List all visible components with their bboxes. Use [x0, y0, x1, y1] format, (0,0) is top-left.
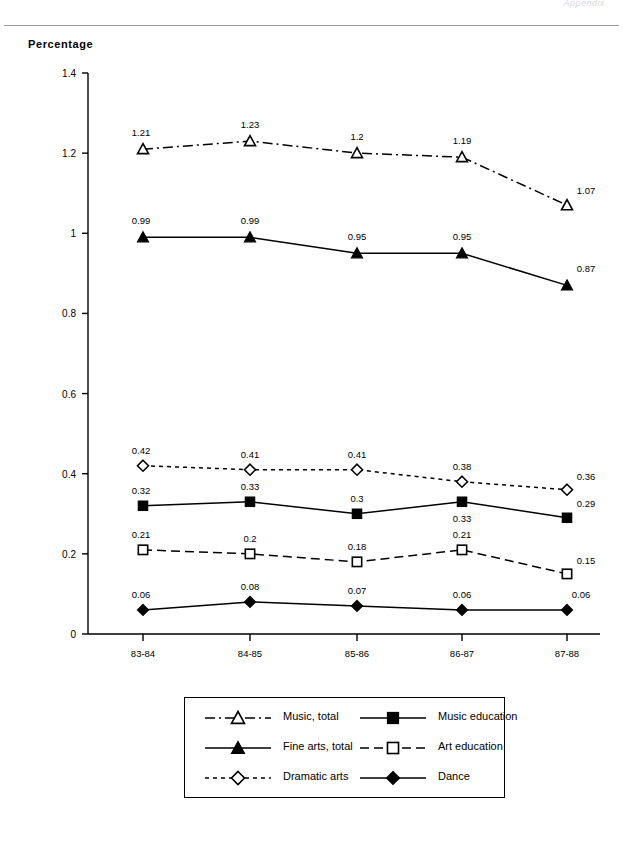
y-axis-tick-label: 1 [36, 228, 76, 239]
legend-entry-art-education: Art education [430, 740, 503, 752]
y-axis-tick-label: 0.8 [36, 308, 76, 319]
data-point-label: 0.21 [453, 528, 472, 539]
data-point-label: 0.3 [350, 492, 363, 503]
y-axis-tick-label: 1.4 [36, 68, 76, 79]
data-point-label: 0.87 [577, 263, 596, 274]
data-point-label: 0.2 [243, 532, 256, 543]
data-point-label: 1.2 [350, 131, 363, 142]
data-point-label: 0.06 [132, 588, 151, 599]
data-point-label: 0.99 [132, 215, 151, 226]
x-axis-tick-label: 83-84 [113, 648, 173, 659]
data-point-label: 0.41 [348, 448, 367, 459]
data-point-label: 0.08 [241, 580, 260, 591]
y-axis-tick-label: 0.6 [36, 388, 76, 399]
data-point-label: 1.19 [453, 135, 472, 146]
legend-entry-fine-arts-total: Fine arts, total [275, 740, 353, 752]
data-point-label: 0.07 [348, 584, 367, 595]
legend-entry-dramatic-arts: Dramatic arts [275, 770, 348, 782]
data-point-label: 0.15 [577, 554, 596, 565]
chart-axes [82, 73, 600, 641]
x-axis-tick-label: 84-85 [220, 648, 280, 659]
x-axis-tick-label: 86-87 [432, 648, 492, 659]
data-point-label: 0.33 [453, 512, 472, 523]
data-point-label: 1.07 [577, 185, 596, 196]
data-point-label: 1.21 [132, 127, 151, 138]
legend-entry-music-education: Music education [430, 710, 518, 722]
chart-legend: Music, totalMusic educationFine arts, to… [184, 697, 505, 798]
legend-entry-music-total: Music, total [275, 710, 339, 722]
data-point-label: 0.36 [577, 470, 596, 481]
y-axis-tick-label: 0 [36, 629, 76, 640]
data-point-label: 0.95 [348, 231, 367, 242]
data-point-label: 0.29 [577, 497, 596, 508]
y-axis-tick-label: 0.2 [36, 548, 76, 559]
data-point-label: 0.95 [453, 231, 472, 242]
data-point-label: 0.99 [241, 215, 260, 226]
data-point-label: 0.06 [572, 588, 591, 599]
x-axis-tick-label: 85-86 [327, 648, 387, 659]
data-point-label: 0.38 [453, 460, 472, 471]
chart-page: Appendix Percentage 00.20.40.60.811.21.4… [0, 0, 623, 843]
data-point-label: 1.23 [241, 119, 260, 130]
data-point-label: 0.41 [241, 448, 260, 459]
data-point-label: 0.21 [132, 528, 151, 539]
legend-entry-dance: Dance [430, 770, 470, 782]
data-point-label: 0.06 [453, 588, 472, 599]
data-point-label: 0.18 [348, 540, 367, 551]
y-axis-tick-label: 1.2 [36, 148, 76, 159]
data-point-label: 0.32 [132, 484, 151, 495]
y-axis-tick-label: 0.4 [36, 468, 76, 479]
data-point-label: 0.42 [132, 444, 151, 455]
x-axis-tick-label: 87-88 [537, 648, 597, 659]
data-point-label: 0.33 [241, 480, 260, 491]
